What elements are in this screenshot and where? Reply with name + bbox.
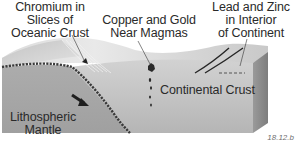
block-side-face: [253, 52, 268, 133]
ore-deposit-block-diagram: Chromium in Slices of Oceanic Crust Copp…: [0, 0, 297, 145]
figure-number: 18.12.b: [267, 133, 294, 142]
region-label-continental-crust: Continental Crust: [160, 84, 255, 97]
callout-lead-zinc: Lead and Zinc in Interior of Continent: [206, 1, 296, 40]
callout-copper-gold: Copper and Gold Near Magmas: [101, 14, 197, 40]
callout-chromium: Chromium in Slices of Oceanic Crust: [2, 1, 98, 40]
region-label-lithospheric-mantle: Lithospheric Mantle: [8, 111, 78, 137]
